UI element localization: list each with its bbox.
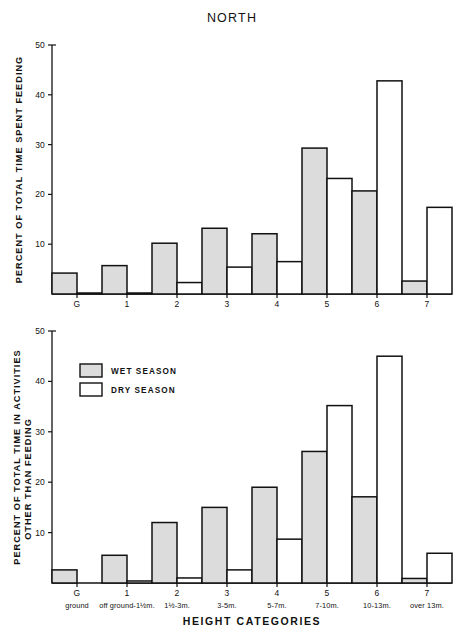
panel-top-bar-dry-6 bbox=[377, 81, 402, 294]
panel-bottom-bar-wet-2 bbox=[152, 523, 177, 583]
y-axis-title-bottom-line1: PERCENT OF TOTAL TIME IN ACTIVITIES bbox=[12, 349, 22, 564]
legend-swatch-wet bbox=[80, 364, 102, 377]
panel-top-bar-wet-6 bbox=[352, 191, 377, 294]
panel-bottom-bar-wet-6 bbox=[352, 497, 377, 583]
panel-top-bar-dry-3 bbox=[227, 267, 252, 294]
panel-bottom-bar-wet-3 bbox=[202, 507, 227, 583]
panel-bottom-bar-wet-4 bbox=[252, 487, 277, 583]
panel-top-ytick-label-20: 20 bbox=[35, 189, 45, 199]
panel-top-ytick-label-30: 30 bbox=[35, 140, 45, 150]
panel-top-ytick-label-40: 40 bbox=[35, 90, 45, 100]
panel-top-bar-dry-4 bbox=[277, 262, 302, 294]
panel-top-xtick-label-5: 5 bbox=[324, 299, 329, 309]
figure-title: NORTH bbox=[207, 11, 257, 25]
panel-bottom-bar-dry-5 bbox=[327, 406, 352, 583]
panel-bottom-ytick-label-40: 40 bbox=[35, 376, 45, 386]
panel-bottom-xtick-label-3: 3 bbox=[224, 588, 229, 598]
panel-top-bar-wet-1 bbox=[102, 266, 127, 294]
panel-top-bar-wet-G bbox=[52, 273, 77, 294]
panel-bottom-xtick-label-4: 4 bbox=[274, 588, 279, 598]
panel-bottom-xtick-sublabel-3: 3-5m. bbox=[217, 601, 236, 610]
panel-top-bar-wet-5 bbox=[302, 148, 327, 294]
panel-top-xtick-label-1: 1 bbox=[124, 299, 129, 309]
panel-top-xtick-label-4: 4 bbox=[274, 299, 279, 309]
panel-top-xtick-label-2: 2 bbox=[174, 299, 179, 309]
panel-top-bar-dry-1 bbox=[127, 293, 152, 294]
panel-bottom-xtick-sublabel-5: 7-10m. bbox=[315, 601, 339, 610]
panel-top-xtick-label-G: G bbox=[74, 299, 81, 309]
panel-top-ytick-label-10: 10 bbox=[35, 239, 45, 249]
panel-bottom-bar-dry-4 bbox=[277, 539, 302, 583]
panel-bottom-bar-dry-6 bbox=[377, 356, 402, 583]
panel-bottom-xtick-sublabel-2: 1½-3m. bbox=[164, 601, 190, 610]
panel-top-ytick-label-50: 50 bbox=[35, 40, 45, 50]
panel-bottom-bar-wet-7 bbox=[402, 578, 427, 583]
panel-top-bar-dry-G bbox=[77, 293, 102, 294]
panel-bottom-bar-dry-2 bbox=[177, 578, 202, 583]
figure-canvas: NORTH1020304050G1234567PERCENT OF TOTAL … bbox=[0, 0, 465, 633]
panel-bottom-xtick-sublabel-G: ground bbox=[65, 601, 89, 610]
panel-bottom-ytick-label-50: 50 bbox=[35, 326, 45, 336]
panel-bottom-bar-wet-G bbox=[52, 570, 77, 583]
figure-north-height-categories: NORTH1020304050G1234567PERCENT OF TOTAL … bbox=[0, 0, 465, 633]
y-axis-title-bottom-line2: OTHER THAN FEEDING bbox=[23, 418, 33, 540]
panel-top-bar-wet-3 bbox=[202, 228, 227, 294]
panel-bottom-xtick-sublabel-4: 5-7m. bbox=[267, 601, 286, 610]
panel-top-bar-wet-7 bbox=[402, 281, 427, 294]
panel-bottom-xtick-label-5: 5 bbox=[324, 588, 329, 598]
panel-bottom-ytick-label-20: 20 bbox=[35, 477, 45, 487]
panel-top-bar-dry-5 bbox=[327, 178, 352, 294]
panel-top-xtick-label-6: 6 bbox=[374, 299, 379, 309]
panel-top-xtick-label-3: 3 bbox=[224, 299, 229, 309]
panel-top-bar-wet-4 bbox=[252, 234, 277, 294]
panel-bottom-bar-wet-1 bbox=[102, 555, 127, 583]
panel-top-bar-dry-2 bbox=[177, 283, 202, 294]
panel-bottom-xtick-label-6: 6 bbox=[374, 588, 379, 598]
panel-top-xtick-label-7: 7 bbox=[424, 299, 429, 309]
panel-bottom-xtick-label-G: G bbox=[74, 588, 81, 598]
legend-label-dry: DRY SEASON bbox=[111, 386, 176, 395]
panel-bottom-xtick-sublabel-1: off ground-1½m. bbox=[99, 601, 155, 610]
panel-bottom-ytick-label-30: 30 bbox=[35, 427, 45, 437]
legend-label-wet: WET SEASON bbox=[111, 367, 177, 376]
panel-bottom-bar-dry-3 bbox=[227, 570, 252, 583]
y-axis-title-top: PERCENT OF TOTAL TIME SPENT FEEDING bbox=[14, 56, 24, 283]
panel-bottom-bar-wet-5 bbox=[302, 451, 327, 583]
panel-bottom-bar-dry-1 bbox=[127, 581, 152, 583]
panel-bottom-xtick-sublabel-6: 10-13m. bbox=[363, 601, 391, 610]
panel-bottom-xtick-label-1: 1 bbox=[124, 588, 129, 598]
panel-bottom-xtick-label-7: 7 bbox=[424, 588, 429, 598]
panel-bottom-xtick-sublabel-7: over 13m. bbox=[410, 601, 444, 610]
panel-bottom-ytick-label-10: 10 bbox=[35, 528, 45, 538]
panel-top-bar-dry-7 bbox=[427, 207, 452, 294]
panel-bottom-bar-dry-7 bbox=[427, 553, 452, 583]
panel-top-bar-wet-2 bbox=[152, 243, 177, 294]
x-axis-title: HEIGHT CATEGORIES bbox=[183, 615, 321, 627]
legend-swatch-dry bbox=[80, 383, 102, 396]
panel-bottom-xtick-label-2: 2 bbox=[174, 588, 179, 598]
